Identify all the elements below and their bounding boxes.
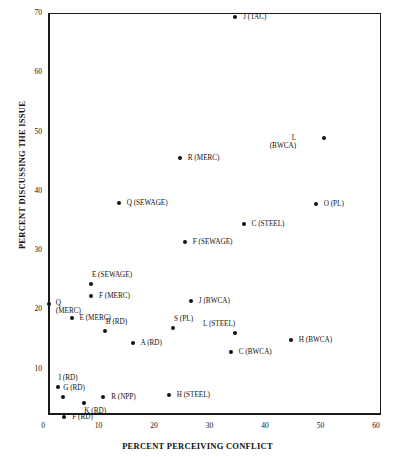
y-tick-label: 20 [12, 305, 42, 313]
data-point [89, 294, 93, 298]
x-axis-title: PERCENT PERCEIVING CONFLICT [0, 441, 395, 451]
data-point-label: Q (MERC) [56, 299, 81, 316]
x-tick-label: 10 [87, 422, 111, 430]
data-point [47, 302, 51, 306]
data-point [61, 395, 65, 399]
y-tick-label: 10 [12, 365, 42, 373]
scatter-plot-figure: 10203040506070 0102030405060 J (TAC)L (B… [0, 0, 395, 457]
data-point-label: R (NPP) [111, 393, 136, 401]
x-tick-label: 60 [364, 422, 388, 430]
data-point-label: L (BWCA) [270, 134, 296, 151]
data-point-label: Q (SEWAGE) [127, 199, 168, 207]
data-point [289, 338, 293, 342]
data-point-label: H (BWCA) [299, 336, 332, 344]
data-point [314, 202, 318, 206]
data-point-label: R (MERC) [188, 154, 220, 162]
x-tick-label: 30 [198, 422, 222, 430]
x-tick-label: 40 [253, 422, 277, 430]
data-point [62, 415, 66, 419]
plot-area [48, 13, 381, 415]
data-point-label: A (RD) [141, 339, 162, 347]
data-point-label: H (STEEL) [177, 391, 210, 399]
data-point [229, 350, 233, 354]
data-point [167, 393, 171, 397]
data-point-label: C (STEEL) [252, 220, 285, 228]
data-point [89, 282, 93, 286]
data-point [178, 156, 182, 160]
data-point [131, 341, 135, 345]
data-point-label: J (TAC) [243, 13, 266, 21]
data-point-label: B (RD) [106, 318, 127, 326]
data-point [56, 385, 60, 389]
data-point-label: I (RD) [59, 374, 78, 382]
data-point-label: C (BWCA) [239, 348, 272, 356]
data-point-label: O (PL) [324, 200, 344, 208]
x-tick-label: 0 [31, 422, 55, 430]
x-tick-label: 50 [309, 422, 333, 430]
data-point-label: E (SEWAGE) [92, 271, 132, 279]
x-tick-label: 20 [142, 422, 166, 430]
data-point-label: S (PL) [174, 315, 193, 323]
data-point-label: F (RD) [72, 413, 93, 421]
data-point-label: L (STEEL) [203, 320, 235, 328]
data-point-label: F (MERC) [99, 292, 130, 300]
data-point [117, 201, 121, 205]
data-point-label: J (BWCA) [199, 297, 230, 305]
data-point-label: F (SEWAGE) [193, 238, 233, 246]
data-point [189, 299, 193, 303]
data-point [101, 395, 105, 399]
data-point [242, 222, 246, 226]
y-axis-title: PERCENT DISCUSSING THE ISSUE [17, 65, 27, 285]
data-point [70, 316, 74, 320]
data-point-label: G (RD) [63, 384, 85, 392]
y-tick-label: 70 [12, 9, 42, 17]
